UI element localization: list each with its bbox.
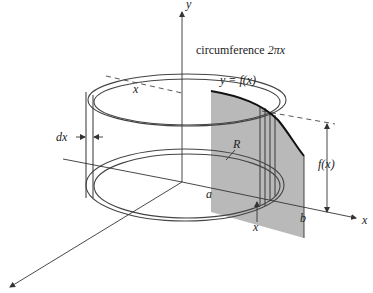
a-label: a	[206, 187, 212, 201]
shell-method-diagram: y circumference 2πx x y = f(x) dx R f(x)…	[0, 0, 373, 293]
x-axis-label: x	[361, 213, 368, 227]
function-label: y = f(x)	[219, 73, 256, 87]
circumference-label: circumference 2πx	[196, 43, 286, 57]
z-axis	[10, 182, 182, 287]
dx-label: dx	[56, 130, 68, 144]
radius-dashed-line	[106, 76, 182, 93]
shell-x-label: x	[252, 220, 259, 234]
region-r	[211, 91, 304, 238]
region-label: R	[232, 137, 241, 151]
b-label: b	[300, 211, 306, 225]
y-axis-label: y	[185, 0, 192, 11]
radius-label: x	[132, 82, 139, 96]
height-label: f(x)	[318, 157, 335, 171]
